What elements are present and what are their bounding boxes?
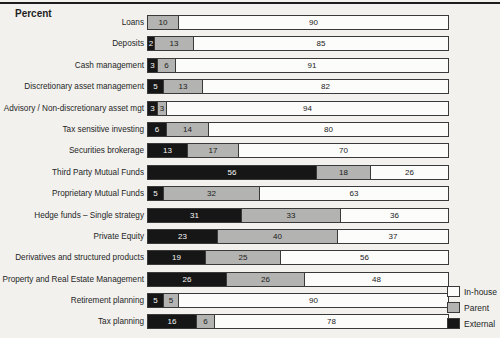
chart-row: Tax sensitive investing61480 [0,122,500,137]
bar-segment-inhouse: 90 [178,294,448,307]
chart-row: Tax planning16678 [0,314,500,329]
legend-item-external: External [447,318,497,329]
bar-segment-inhouse: 56 [280,251,448,264]
bar-segment-parent: 17 [187,144,238,157]
category-label: Discretionary asset management [0,79,147,94]
bar-segment-external: 6 [148,123,166,136]
stacked-bar: 192556 [147,250,449,265]
category-label: Loans [0,15,147,30]
bar-segment-inhouse: 36 [340,209,448,222]
chart-row: Cash management3691 [0,58,500,73]
bar-segment-parent: 40 [217,230,337,243]
bar-segment-inhouse: 80 [208,123,448,136]
legend-label-external: External [464,319,495,329]
stacked-bar: 3691 [147,58,449,73]
category-label: Hedge funds – Single strategy [0,208,147,223]
bar-segment-inhouse: 82 [202,80,448,93]
chart-row: Loans1090 [0,15,500,30]
stacked-bar: 5590 [147,293,449,308]
bar-segment-parent: 25 [205,251,280,264]
stacked-bar: 131770 [147,143,449,158]
bar-segment-inhouse: 90 [178,16,448,29]
category-label: Retirement planning [0,293,147,308]
chart-row: Hedge funds – Single strategy313336 [0,208,500,223]
stacked-bar-chart: Loans1090Deposits21385Cash management369… [0,15,500,336]
legend-swatch-in-house [447,286,460,297]
chart-row: Securities brokerage131770 [0,143,500,158]
stacked-bar: 61480 [147,122,449,137]
bar-segment-external: 23 [148,230,217,243]
stacked-bar: 234037 [147,229,449,244]
bar-segment-inhouse: 63 [259,187,448,200]
chart-row: Private Equity234037 [0,229,500,244]
legend-label-parent: Parent [464,303,489,313]
legend-swatch-external [447,318,460,329]
chart-row: Retirement planning5590 [0,293,500,308]
bar-segment-external: 16 [148,315,196,328]
stacked-bar: 21385 [147,36,449,51]
bar-segment-parent: 6 [196,315,214,328]
category-label: Third Party Mutual Funds [0,165,147,180]
bar-segment-external: 5 [148,187,163,200]
bar-segment-parent: 13 [163,80,202,93]
bar-segment-inhouse: 70 [238,144,448,157]
category-label: Proprietary Mutual Funds [0,186,147,201]
category-label: Derivatives and structured products [0,250,147,265]
legend-item-parent: Parent [447,302,497,313]
bar-segment-parent: 33 [241,209,340,222]
bar-segment-parent: 32 [163,187,259,200]
chart-row: Deposits21385 [0,36,500,51]
bar-segment-external: 3 [148,59,157,72]
category-label: Property and Real Estate Management [0,272,147,287]
chart-row: Advisory / Non-discretionary asset mgt33… [0,101,500,116]
bar-segment-parent: 13 [154,37,193,50]
stacked-bar: 53263 [147,186,449,201]
stacked-bar: 561826 [147,165,449,180]
category-label: Cash management [0,58,147,73]
chart-row: Proprietary Mutual Funds53263 [0,186,500,201]
bar-segment-inhouse: 26 [370,166,448,179]
bar-segment-parent: 26 [226,273,304,286]
stacked-bar: 262648 [147,272,449,287]
stacked-bar: 51382 [147,79,449,94]
bar-segment-parent: 18 [316,166,370,179]
chart-row: Property and Real Estate Management26264… [0,272,500,287]
category-label: Tax sensitive investing [0,122,147,137]
top-rule [0,2,500,4]
bar-segment-parent: 6 [157,59,175,72]
category-label: Securities brokerage [0,143,147,158]
chart-row: Derivatives and structured products19255… [0,250,500,265]
stacked-bar: 313336 [147,208,449,223]
bar-segment-external: 31 [148,209,241,222]
bar-segment-parent: 14 [166,123,208,136]
legend-label-in-house: In-house [464,287,497,297]
bar-segment-parent: 10 [148,16,178,29]
chart-row: Discretionary asset management51382 [0,79,500,94]
bar-segment-external: 26 [148,273,226,286]
category-label: Private Equity [0,229,147,244]
bar-segment-external: 56 [148,166,316,179]
stacked-bar: 1090 [147,15,449,30]
category-label: Tax planning [0,314,147,329]
bar-segment-external: 5 [148,80,163,93]
category-label: Deposits [0,36,147,51]
stacked-bar: 16678 [147,314,449,329]
bar-segment-parent: 3 [157,102,166,115]
bar-segment-inhouse: 37 [337,230,448,243]
bar-segment-inhouse: 85 [193,37,448,50]
bar-segment-external: 19 [148,251,205,264]
bar-segment-parent: 5 [163,294,178,307]
bar-segment-inhouse: 78 [214,315,448,328]
bar-segment-external: 13 [148,144,187,157]
bar-segment-inhouse: 48 [304,273,448,286]
category-label: Advisory / Non-discretionary asset mgt [0,101,147,116]
stacked-bar: 3394 [147,101,449,116]
bar-segment-inhouse: 91 [175,59,448,72]
legend: In-house Parent External [447,286,497,334]
bar-segment-external: 5 [148,294,163,307]
legend-item-in-house: In-house [447,286,497,297]
bar-segment-external: 3 [148,102,157,115]
chart-row: Third Party Mutual Funds561826 [0,165,500,180]
bar-segment-inhouse: 94 [166,102,448,115]
legend-swatch-parent [447,302,460,313]
